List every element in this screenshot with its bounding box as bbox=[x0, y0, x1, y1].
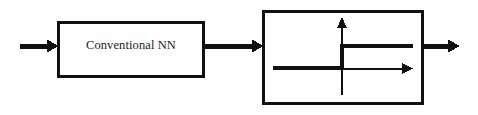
diagram-graphics bbox=[0, 0, 478, 115]
block-diagram-canvas: Conventional NN bbox=[0, 0, 478, 115]
nn-to-activation-arrow bbox=[205, 40, 264, 53]
nn-block-label: Conventional NN bbox=[57, 38, 205, 53]
output-arrow-head bbox=[448, 40, 460, 53]
input-arrow bbox=[20, 40, 59, 53]
interconnect-arrow-head bbox=[252, 40, 264, 53]
output-arrow bbox=[424, 40, 460, 53]
